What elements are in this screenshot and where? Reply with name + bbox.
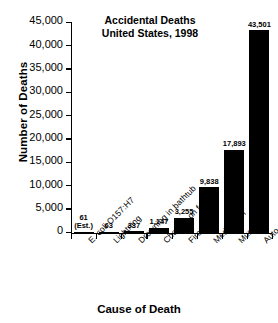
bar-value-note: (Est.) [74, 222, 93, 231]
y-axis-title: Number of Deaths [17, 32, 29, 192]
y-axis-tick: 25,000 [66, 115, 71, 116]
bar-value-label: 9,838 [200, 178, 219, 187]
bar-value-number: 9,838 [200, 177, 219, 186]
y-axis-tick-label: 30,000 [29, 84, 63, 96]
y-axis-tick-label: 45,000 [29, 14, 63, 26]
bar-value-number: 61 [79, 213, 87, 222]
y-axis-tick: 45,000 [66, 22, 71, 23]
bar-value-number: 43,501 [248, 20, 271, 29]
y-axis-tick-label: 25,000 [29, 108, 63, 120]
y-axis-tick-label: 5,000 [35, 201, 63, 213]
y-axis-tick: 40,000 [66, 45, 71, 46]
y-axis-tick-label: 35,000 [29, 61, 63, 73]
y-axis-tick-label: 15,000 [29, 154, 63, 166]
y-axis-tick: 35,000 [66, 68, 71, 69]
y-axis-tick-label: 40,000 [29, 38, 63, 50]
y-axis-tick-label: 10,000 [29, 178, 63, 190]
bar: 43,501 [249, 30, 269, 233]
y-axis-tick-label: 20,000 [29, 131, 63, 143]
bar-value-label: 17,893 [223, 140, 246, 149]
y-axis-tick: 5,000 [66, 208, 71, 209]
x-axis-tick [71, 234, 72, 239]
x-axis-title: Cause of Death [0, 303, 278, 315]
y-axis-tick: 0 [66, 232, 71, 233]
bar-value-label: 43,501 [248, 21, 271, 30]
y-axis-tick: 20,000 [66, 138, 71, 139]
y-axis-tick: 30,000 [66, 92, 71, 93]
bar-chart-figure: Number of Deaths Accidental Deaths Unite… [0, 0, 278, 323]
y-axis-tick: 15,000 [66, 162, 71, 163]
y-axis-tick-label: 0 [57, 224, 63, 236]
y-axis-line [71, 22, 72, 233]
y-axis-tick: 10,000 [66, 185, 71, 186]
bar-value-number: 17,893 [223, 139, 246, 148]
bar-value-label: 61(Est.) [74, 214, 93, 231]
